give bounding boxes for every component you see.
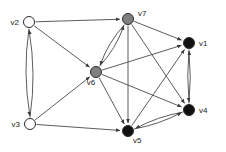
graph-edge-v4-to-v1: [189, 51, 190, 103]
graph-canvas: v1v2v3v4v5v6v7: [0, 0, 226, 152]
graph-node-v1[interactable]: [184, 38, 195, 49]
graph-figure: v1v2v3v4v5v6v7: [0, 0, 226, 152]
graph-node-v3[interactable]: [25, 119, 36, 130]
graph-edge-v5-to-v1: [132, 50, 185, 126]
graph-edge-v1-to-v4: [188, 50, 189, 102]
graph-edge-v7-to-v1: [134, 21, 181, 40]
graph-edge-v6-to-v4: [102, 74, 181, 106]
graph-node-v5[interactable]: [123, 126, 134, 137]
graph-edge-v7-to-v6: [100, 25, 124, 66]
graph-edge-v2-to-v7: [35, 19, 119, 22]
nodes-layer: [24, 14, 195, 137]
graph-node-label-v6: v6: [87, 78, 96, 87]
graph-edge-v6-to-v5: [99, 78, 124, 124]
graph-edge-v2-to-v6: [34, 26, 89, 67]
graph-node-label-v2: v2: [11, 18, 20, 27]
graph-edge-v5-to-v4: [134, 113, 181, 129]
graph-edge-v3-to-v2: [29, 30, 33, 117]
graph-edge-v3-to-v5: [36, 124, 119, 130]
graph-edge-v6-to-v7: [99, 26, 123, 67]
graph-node-v4[interactable]: [184, 105, 195, 116]
graph-node-label-v7: v7: [138, 9, 147, 18]
graph-node-label-v4: v4: [199, 106, 208, 115]
graph-edge-v6-to-v1: [102, 45, 181, 70]
graph-node-v7[interactable]: [123, 14, 134, 25]
graph-edge-v7-to-v4: [132, 24, 185, 103]
graph-edge-v4-to-v5: [136, 112, 183, 128]
edges-layer: [26, 19, 190, 130]
graph-node-v2[interactable]: [24, 17, 35, 28]
graph-node-label-v3: v3: [12, 120, 21, 129]
graph-edge-v3-to-v6: [35, 77, 90, 120]
graph-node-v6[interactable]: [91, 67, 102, 78]
graph-node-label-v1: v1: [199, 39, 208, 48]
graph-edge-v2-to-v3: [26, 28, 30, 115]
graph-node-label-v5: v5: [133, 136, 142, 145]
